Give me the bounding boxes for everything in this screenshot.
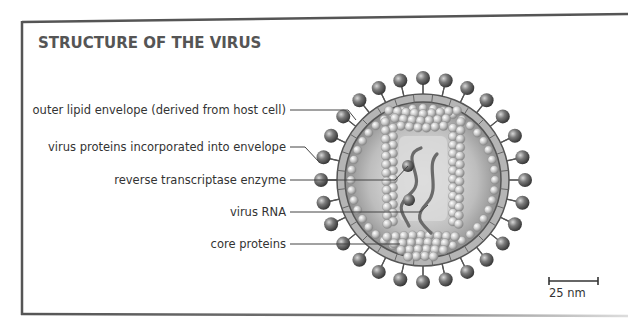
scale-bar-label: 25 nm xyxy=(549,286,586,300)
label-virus-rna: virus RNA xyxy=(230,205,286,219)
label-reverse-transcriptase: reverse transcriptase enzyme xyxy=(114,173,286,187)
label-outer-lipid-envelope: outer lipid envelope (derived from host … xyxy=(33,103,286,117)
label-core-proteins: core proteins xyxy=(211,237,286,251)
label-column: outer lipid envelope (derived from host … xyxy=(0,0,286,325)
scale-bar xyxy=(549,277,598,285)
label-virus-proteins: virus proteins incorporated into envelop… xyxy=(48,140,286,154)
